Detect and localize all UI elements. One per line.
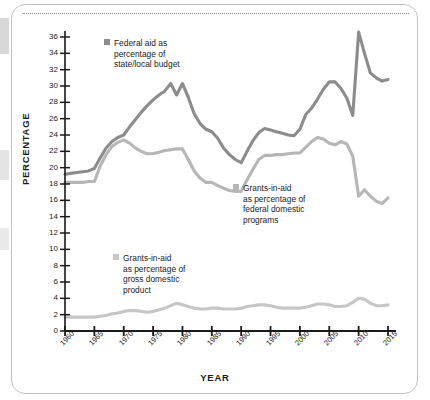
y-tick-label: 30 [40, 81, 58, 90]
legend-swatch-icon [113, 254, 119, 260]
legend-label-line: percentage of [114, 49, 165, 59]
y-tick-label: 6 [40, 277, 58, 286]
axes-layer [60, 31, 396, 336]
y-tick-label: 32 [40, 65, 58, 74]
y-axis-title: PERCENTAGE [20, 113, 31, 185]
y-tick-label: 22 [40, 146, 58, 155]
legend-label-line: product [123, 285, 151, 295]
y-tick-label: 26 [40, 114, 58, 123]
y-tick-label: 12 [40, 228, 58, 237]
legend-line: as percentage of [113, 264, 185, 275]
y-tick-label: 36 [40, 32, 58, 41]
x-axis-title: YEAR [0, 372, 430, 383]
legend-item-grants-gdp: Grants-in-aidas percentage ofgross domes… [113, 253, 185, 295]
legend-item-federal-aid-state-local: Federal aid aspercentage ofstate/local b… [104, 38, 180, 70]
legend-label-line: as percentage of [243, 194, 305, 204]
y-tick-label: 8 [40, 261, 58, 270]
y-tick-label: 16 [40, 195, 58, 204]
y-tick-label: 18 [40, 179, 58, 188]
chart-page: 024681012141618202224262830323436 196019… [0, 0, 430, 400]
y-tick-label: 2 [40, 310, 58, 319]
y-tick-label: 4 [40, 293, 58, 302]
legend-line: programs [233, 215, 305, 226]
y-tick-label: 14 [40, 212, 58, 221]
y-tick-label: 20 [40, 163, 58, 172]
legend-line: Federal aid as [104, 38, 180, 49]
legend-line: product [113, 285, 185, 296]
legend-label-line: federal domestic [243, 204, 304, 214]
legend-line: percentage of [104, 49, 180, 60]
y-tick-label: 28 [40, 97, 58, 106]
legend-label-line: Grants-in-aid [243, 183, 291, 193]
y-tick-label: 10 [40, 244, 58, 253]
y-tick-label: 0 [40, 326, 58, 335]
y-tick-label: 24 [40, 130, 58, 139]
legend-line: gross domestic [113, 274, 185, 285]
legend-label-line: gross domestic [123, 274, 179, 284]
legend-line: Grants-in-aid [233, 183, 305, 194]
series-line-1 [65, 137, 388, 203]
legend-line: Grants-in-aid [113, 253, 185, 264]
legend-item-grants-federal-domestic: Grants-in-aidas percentage offederal dom… [233, 183, 305, 225]
legend-label-line: Federal aid as [114, 38, 167, 48]
legend-label-line: programs [243, 215, 278, 225]
legend-line: state/local budget [104, 59, 180, 70]
legend-line: federal domestic [233, 204, 305, 215]
legend-label-line: Grants-in-aid [123, 253, 171, 263]
legend-label-line: as percentage of [123, 264, 185, 274]
legend-label-line: state/local budget [114, 59, 180, 69]
legend-line: as percentage of [233, 194, 305, 205]
series-line-2 [65, 298, 388, 317]
y-tick-label: 34 [40, 48, 58, 57]
legend-swatch-icon [104, 39, 110, 45]
legend-swatch-icon [233, 184, 239, 190]
